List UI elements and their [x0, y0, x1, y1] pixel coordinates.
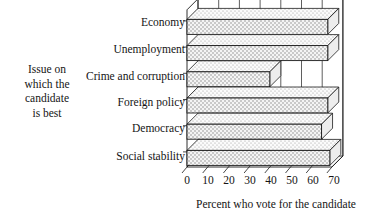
- bar-series: [187, 8, 341, 165]
- bar: [187, 139, 341, 165]
- bar: [187, 113, 333, 139]
- bar-chart: Issue on which the candidate is best Eco…: [0, 0, 371, 221]
- plot-area: [0, 0, 371, 221]
- bar: [187, 35, 339, 61]
- bar: [187, 87, 339, 113]
- bar: [187, 61, 281, 87]
- bar: [187, 8, 339, 34]
